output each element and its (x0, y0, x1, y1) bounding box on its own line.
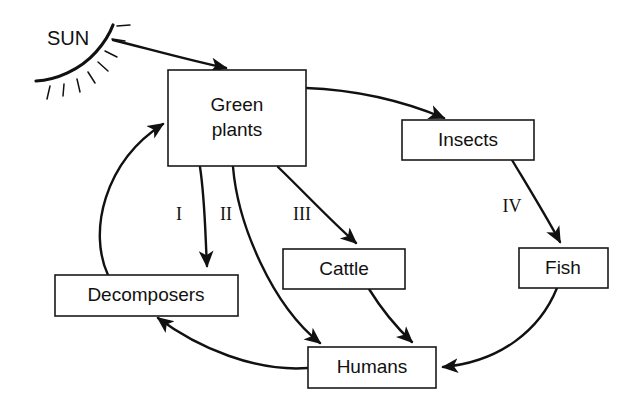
food-web-diagram: SUN Green plants Insects Cattle F (0, 0, 634, 413)
edge-green-plants-to-cattle (278, 167, 356, 243)
sun-label: SUN (47, 27, 89, 49)
node-cattle[interactable]: Cattle (283, 249, 405, 289)
node-label-decomposers: Decomposers (87, 284, 204, 305)
node-fish[interactable]: Fish (519, 248, 608, 288)
edge-label-IV: IV (503, 196, 522, 216)
edge-humans-to-decomposers (158, 318, 308, 368)
node-label-humans: Humans (337, 356, 408, 377)
node-green-plants[interactable]: Green plants (168, 70, 306, 166)
edge-sun-to-green-plants (113, 40, 226, 68)
diagram-canvas: SUN Green plants Insects Cattle F (0, 0, 634, 413)
node-label-cattle: Cattle (319, 258, 369, 279)
edge-label-II: II (220, 204, 232, 224)
edge-cattle-to-humans (369, 289, 412, 342)
node-label-fish: Fish (545, 257, 581, 278)
node-label-insects: Insects (438, 129, 498, 150)
node-label-green-plants-line1: Green (211, 94, 264, 115)
edge-label-III: III (293, 204, 311, 224)
edge-fish-to-humans (443, 288, 557, 367)
node-insects[interactable]: Insects (402, 120, 534, 160)
node-label-green-plants-line2: plants (212, 119, 263, 140)
edge-decomposers-to-green-plants (100, 124, 163, 275)
node-decomposers[interactable]: Decomposers (55, 275, 238, 316)
edge-green-plants-to-insects (306, 88, 444, 118)
edge-green-plants-to-decomposers (200, 167, 207, 266)
edge-label-I: I (176, 204, 182, 224)
node-humans[interactable]: Humans (308, 347, 436, 388)
